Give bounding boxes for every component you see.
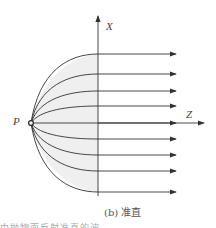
truncated-caption: 由抛物面反射准直的波 xyxy=(0,221,100,228)
point-p xyxy=(29,121,34,126)
figure-caption: (b) 准直 xyxy=(104,204,141,219)
collimation-diagram xyxy=(0,0,216,228)
x-axis-label: X xyxy=(106,20,113,32)
point-p-label: P xyxy=(13,115,20,127)
z-axis-label: Z xyxy=(186,108,192,120)
